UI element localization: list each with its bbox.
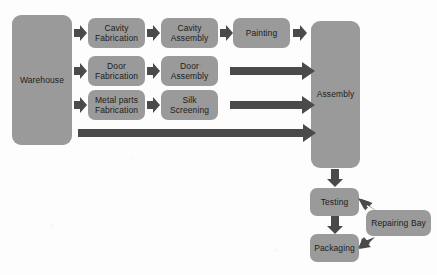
node-painting[interactable]: Painting xyxy=(233,18,290,48)
node-cavity-assembly-label: Cavity Assembly xyxy=(171,23,209,44)
arrow-warehouse-to-door-fabrication xyxy=(74,63,87,79)
arrow-cavity-fabrication-to-cavity-assembly xyxy=(147,25,160,41)
arrow-testing-to-packaging xyxy=(327,216,343,234)
arrow-warehouse-to-metal-parts-fabrication xyxy=(74,97,87,113)
node-packaging-label: Packaging xyxy=(314,243,355,254)
arrow-painting-to-assembly xyxy=(293,25,307,41)
node-painting-label: Painting xyxy=(246,28,278,39)
node-metal-parts-fabrication-label: Metal parts Fabrication xyxy=(95,95,138,116)
node-door-assembly[interactable]: Door Assembly xyxy=(161,56,218,86)
arrow-warehouse-to-cavity-fabrication xyxy=(74,25,87,41)
arrow-silk-screening-to-assembly xyxy=(230,96,315,114)
node-door-fabrication-label: Door Fabrication xyxy=(95,61,138,82)
node-packaging[interactable]: Packaging xyxy=(310,234,359,262)
node-silk-screening[interactable]: Silk Screening xyxy=(161,90,218,120)
node-repairing-bay[interactable]: Repairing Bay xyxy=(366,210,431,236)
arrow-metal-parts-fabrication-to-silk-screening xyxy=(147,97,160,113)
node-cavity-assembly[interactable]: Cavity Assembly xyxy=(161,18,218,48)
node-metal-parts-fabrication[interactable]: Metal parts Fabrication xyxy=(88,90,145,120)
flowchart-canvas: Warehouse Cavity Fabrication Cavity Asse… xyxy=(0,0,437,275)
node-testing[interactable]: Testing xyxy=(310,188,359,216)
node-cavity-fabrication[interactable]: Cavity Fabrication xyxy=(88,18,145,48)
node-warehouse[interactable]: Warehouse xyxy=(12,15,72,145)
arrow-door-fabrication-to-door-assembly xyxy=(147,63,160,79)
node-repairing-bay-label: Repairing Bay xyxy=(371,218,426,229)
node-door-assembly-label: Door Assembly xyxy=(171,61,209,82)
node-testing-label: Testing xyxy=(321,197,349,208)
arrow-warehouse-to-assembly xyxy=(78,124,316,142)
arrow-assembly-to-testing xyxy=(327,169,343,187)
node-cavity-fabrication-label: Cavity Fabrication xyxy=(95,23,138,44)
node-assembly[interactable]: Assembly xyxy=(311,21,360,168)
arrow-repairing-bay-to-testing xyxy=(356,190,378,212)
node-door-fabrication[interactable]: Door Fabrication xyxy=(88,56,145,86)
node-assembly-label: Assembly xyxy=(317,89,355,100)
node-silk-screening-label: Silk Screening xyxy=(164,95,215,116)
arrow-cavity-assembly-to-painting xyxy=(220,25,233,41)
node-warehouse-label: Warehouse xyxy=(20,75,64,86)
arrow-door-assembly-to-assembly xyxy=(230,62,315,80)
arrow-repairing-bay-to-packaging xyxy=(355,235,377,257)
